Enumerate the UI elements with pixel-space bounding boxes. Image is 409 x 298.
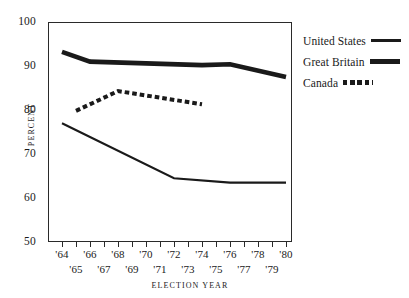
x-tick-mark [188,242,189,247]
legend-item-united-states: United States [303,30,409,51]
legend-item-great-britain: Great Britain [303,51,409,72]
x-tick-label: '68 [105,249,131,260]
legend-label-united-states: United States [303,35,366,47]
legend: United States Great Britain Canada [303,30,409,93]
x-tick-mark [286,242,287,247]
x-tick-label: '70 [133,249,159,260]
y-tick-label: 90 [6,60,36,72]
x-tick-mark [244,242,245,247]
y-tick-label: 70 [6,148,36,160]
legend-label-great-britain: Great Britain [303,56,365,68]
x-tick-label: '79 [259,264,285,275]
x-tick-label: '69 [119,264,145,275]
y-tick-label: 60 [6,192,36,204]
x-tick-mark [202,242,203,247]
x-tick-mark [146,242,147,247]
y-tick-label: 80 [6,104,36,116]
x-tick-mark [216,242,217,247]
legend-label-canada: Canada [303,77,338,89]
x-tick-label: '65 [63,264,89,275]
series-line-canada [76,91,202,111]
x-tick-mark [160,242,161,247]
x-tick-label: '76 [217,249,243,260]
x-axis-title: ELECTION YEAR [120,281,260,290]
y-tick-label: 50 [6,236,36,248]
x-tick-mark [76,242,77,247]
x-tick-mark [258,242,259,247]
x-tick-mark [104,242,105,247]
x-tick-label: '66 [77,249,103,260]
chart-page: PERCENT 5060708090100 '64'66'68'70'72'74… [0,0,409,298]
x-tick-mark [62,242,63,247]
x-tick-label: '75 [203,264,229,275]
y-tick-label: 100 [6,16,36,28]
x-tick-label: '72 [161,249,187,260]
x-tick-label: '71 [147,264,173,275]
x-tick-label: '77 [231,264,257,275]
x-tick-mark [90,242,91,247]
x-tick-mark [132,242,133,247]
x-tick-label: '78 [245,249,271,260]
x-tick-label: '74 [189,249,215,260]
line-dashed-icon [343,80,373,84]
x-tick-mark [118,242,119,247]
x-tick-mark [272,242,273,247]
series-line-united-states [62,123,286,182]
x-tick-label: '73 [175,264,201,275]
series-line-great-britain [62,52,286,77]
x-tick-mark [230,242,231,247]
x-tick-label: '64 [49,249,75,260]
x-tick-label: '67 [91,264,117,275]
plot-lines [48,22,292,242]
line-solid-thin-icon [371,39,401,41]
line-solid-thick-icon [370,59,400,64]
legend-item-canada: Canada [303,72,409,93]
x-tick-mark [174,242,175,247]
x-tick-label: '80 [273,249,299,260]
